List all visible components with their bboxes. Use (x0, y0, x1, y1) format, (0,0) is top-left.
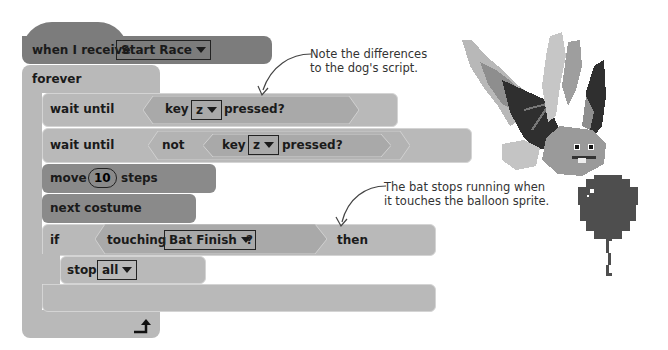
key-dropdown[interactable]: z (191, 100, 222, 120)
dropdown-arrow-icon (196, 47, 206, 53)
steps-input[interactable]: 10 (88, 168, 117, 188)
stop-label: stop (67, 263, 97, 277)
annotation-arrow-icon (330, 180, 390, 230)
if-label: if (50, 233, 59, 247)
annotation-text-line: The bat stops running when (384, 180, 549, 194)
annotation-arrow-icon (255, 48, 315, 98)
bat-sprite-icon (462, 26, 632, 176)
key-label: key (222, 138, 246, 152)
key-value: z (196, 103, 203, 117)
move-label: move (50, 171, 87, 185)
not-label: not (162, 138, 185, 152)
dropdown-arrow-icon (122, 267, 132, 273)
steps-value: 10 (94, 171, 111, 185)
balloon-sprite-icon (570, 175, 650, 315)
key-label: key (165, 102, 189, 116)
touching-target-value: Bat Finish (169, 233, 237, 247)
then-label: then (337, 233, 368, 247)
stop-option-dropdown[interactable]: all (97, 260, 137, 280)
question-mark: ? (246, 233, 253, 247)
next-costume-label: next costume (50, 201, 142, 215)
message-value: Start Race (121, 43, 192, 57)
key-dropdown[interactable]: z (248, 135, 279, 155)
key-value: z (253, 138, 260, 152)
wait-until-label: wait until (50, 102, 114, 116)
pressed-label: pressed? (224, 102, 285, 116)
annotation-text-line: to the dog's script. (310, 61, 427, 75)
pressed-label: pressed? (282, 138, 343, 152)
message-dropdown[interactable]: Start Race (116, 40, 211, 60)
touching-target-dropdown[interactable]: Bat Finish (164, 230, 256, 250)
annotation-text-line: it touches the balloon sprite. (384, 194, 549, 208)
wait-until-label: wait until (50, 138, 114, 152)
stop-option-value: all (102, 263, 118, 277)
dropdown-arrow-icon (207, 107, 217, 113)
forever-label: forever (32, 72, 81, 86)
loop-arrow-icon (132, 318, 154, 334)
dropdown-arrow-icon (264, 142, 274, 148)
annotation-text-line: Note the differences (310, 47, 427, 61)
steps-label: steps (121, 171, 158, 185)
touching-label: touching (107, 233, 166, 247)
